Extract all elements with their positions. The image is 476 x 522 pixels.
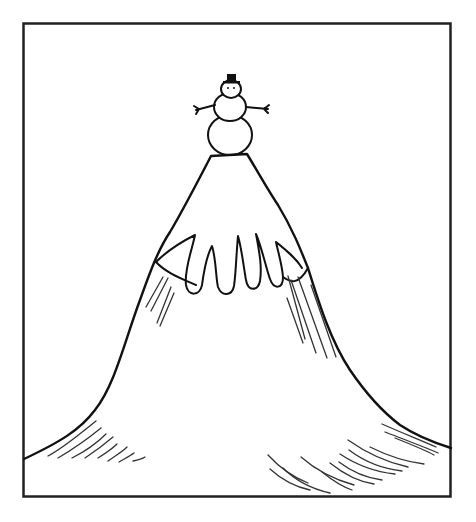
snowman-arm-right [246, 105, 269, 113]
mountain-outline [24, 154, 451, 459]
snowman-eye-left [227, 87, 229, 89]
cartoon-drawing [0, 0, 476, 522]
shading-hatches-bottom-left [48, 421, 145, 462]
snow-cap-edge-right [283, 268, 308, 281]
snowman-arm-left [194, 105, 215, 114]
shading-hatches-bottom-right [268, 424, 438, 493]
snow-cap-edge-left [156, 262, 196, 285]
hat-brim [223, 81, 240, 84]
shading-hatches-left-slope [146, 277, 174, 326]
hat-icon [227, 74, 236, 82]
snowman-eye-right [233, 87, 235, 89]
snow-cap-edge [156, 234, 302, 294]
shading-hatches-right-slope [287, 276, 336, 358]
